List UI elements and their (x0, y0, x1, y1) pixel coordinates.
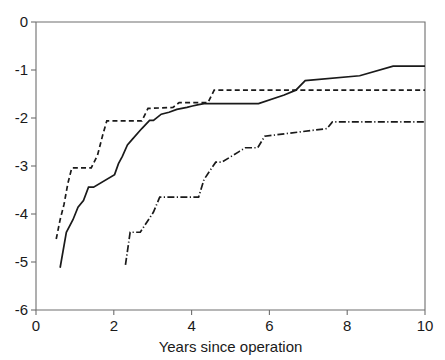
x-axis-title: Years since operation (159, 338, 303, 355)
x-tick-label-0: 0 (32, 317, 40, 334)
plot-border (36, 22, 425, 310)
chart-figure: 0-1-2-3-4-5-60246810Years since operatio… (0, 0, 445, 360)
x-tick-label-1: 2 (110, 317, 118, 334)
axis-lines (36, 22, 425, 310)
series-dashed-curve (56, 90, 425, 239)
y-tick-label-4: -4 (15, 205, 28, 222)
x-tick-label-5: 10 (417, 317, 434, 334)
x-tick-label-3: 6 (265, 317, 273, 334)
y-tick-label-6: -6 (15, 301, 28, 318)
axis-labels-group: 0-1-2-3-4-5-60246810Years since operatio… (15, 13, 434, 355)
x-tick-label-4: 8 (343, 317, 351, 334)
y-tick-label-5: -5 (15, 253, 28, 270)
y-tick-label-2: -2 (15, 109, 28, 126)
x-tick-label-2: 4 (187, 317, 195, 334)
series-solid-curve (60, 66, 425, 268)
plot-svg: 0-1-2-3-4-5-60246810Years since operatio… (0, 0, 445, 360)
series-dash-dot-curve (125, 122, 425, 265)
y-tick-label-0: 0 (20, 13, 28, 30)
y-tick-label-3: -3 (15, 157, 28, 174)
series-group (56, 66, 425, 268)
y-tick-label-1: -1 (15, 61, 28, 78)
